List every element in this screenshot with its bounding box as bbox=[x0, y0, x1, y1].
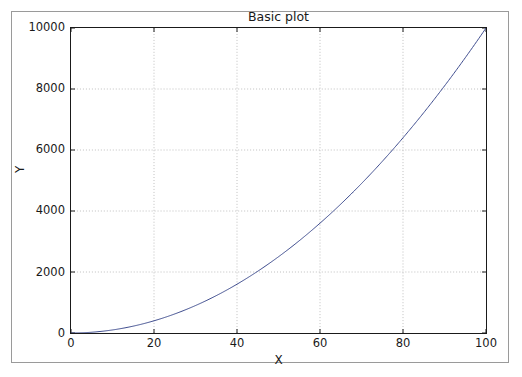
ytick-label-0: 0 bbox=[58, 327, 65, 339]
xtick-label-20: 20 bbox=[147, 337, 162, 349]
ytick-label-2000: 2000 bbox=[36, 266, 65, 278]
axis-ticks bbox=[71, 28, 486, 333]
xtick-label-100: 100 bbox=[475, 337, 497, 349]
plot-svg bbox=[71, 28, 486, 333]
figure-caption bbox=[0, 366, 522, 377]
xtick-label-80: 80 bbox=[396, 337, 411, 349]
y-axis-label: Y bbox=[14, 166, 27, 173]
data-line bbox=[71, 28, 486, 333]
ytick-label-8000: 8000 bbox=[36, 82, 65, 94]
ytick-label-6000: 6000 bbox=[36, 143, 65, 155]
figure-canvas: Basic plot 10000 8000 6000 4000 2000 0 0… bbox=[0, 0, 522, 377]
xtick-label-60: 60 bbox=[313, 337, 328, 349]
xtick-label-0: 0 bbox=[67, 337, 74, 349]
ytick-label-10000: 10000 bbox=[28, 21, 65, 33]
ytick-label-4000: 4000 bbox=[36, 204, 65, 216]
plot-title: Basic plot bbox=[70, 10, 487, 24]
xtick-label-40: 40 bbox=[230, 337, 245, 349]
gridlines bbox=[71, 28, 486, 333]
data-series-group bbox=[71, 28, 486, 333]
plot-area bbox=[70, 27, 487, 334]
